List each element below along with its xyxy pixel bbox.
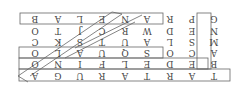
grid-cell[interactable]: N [115,13,135,24]
grid-cell[interactable]: N [204,25,224,36]
grid-cell[interactable]: D [160,25,180,36]
grid-cell[interactable]: E [182,25,202,36]
grid-cell[interactable]: A [70,47,90,58]
grid-cell[interactable]: U [92,47,112,58]
grid-cell[interactable]: S [70,36,90,47]
grid-cell[interactable]: D [160,58,180,69]
grid-cell[interactable]: T [92,36,112,47]
grid-cell[interactable]: P [182,13,202,24]
grid-cell[interactable]: C [182,47,202,58]
grid-cell[interactable]: C [25,36,45,47]
word-search-grid: TARTARUGABEDELFINOACOSQUALOMSLAUTSKCNEDW… [0,0,240,88]
grid-cell[interactable]: U [115,36,135,47]
grid-cell[interactable]: C [92,25,112,36]
grid-cell[interactable]: W [137,25,157,36]
grid-cell[interactable]: A [25,70,45,81]
grid-cell[interactable]: A [115,70,135,81]
grid-cell[interactable]: S [137,47,157,58]
grid-cell[interactable]: A [182,70,202,81]
grid-cell[interactable]: R [92,70,112,81]
grid-cell[interactable]: S [182,36,202,47]
grid-cell[interactable]: A [137,36,157,47]
grid-cell[interactable]: E [92,13,112,24]
grid-cell[interactable]: L [48,47,68,58]
grid-cell[interactable]: B [204,58,224,69]
grid-cell[interactable]: T [137,70,157,81]
grid-cell[interactable]: K [48,36,68,47]
grid-cell[interactable]: U [70,70,90,81]
grid-cell[interactable]: T [204,70,224,81]
grid-cell[interactable]: T [48,25,68,36]
grid-cell[interactable]: I [70,58,90,69]
grid-cell[interactable]: R [160,70,180,81]
grid-cell[interactable]: O [25,47,45,58]
grid-cell[interactable]: G [48,70,68,81]
grid-cell[interactable]: O [25,25,45,36]
grid-cell[interactable]: L [115,58,135,69]
grid-cell[interactable]: F [92,58,112,69]
grid-cell[interactable]: A [48,13,68,24]
grid-cell[interactable]: M [204,36,224,47]
grid-cell[interactable]: J [70,25,90,36]
grid-cell[interactable]: A [137,13,157,24]
grid-cell[interactable]: Q [115,47,135,58]
grid-cell[interactable]: G [204,13,224,24]
grid-cell[interactable]: B [25,13,45,24]
grid-cell[interactable]: O [160,47,180,58]
grid-cell[interactable]: E [137,58,157,69]
grid-cell[interactable]: A [204,47,224,58]
grid-cell[interactable]: R [160,13,180,24]
grid-cell[interactable]: O [25,58,45,69]
grid-cell[interactable]: E [182,58,202,69]
grid-cell[interactable]: R [115,25,135,36]
grid-cell[interactable]: N [48,58,68,69]
grid-cell[interactable]: L [70,13,90,24]
grid-cell[interactable]: L [160,36,180,47]
